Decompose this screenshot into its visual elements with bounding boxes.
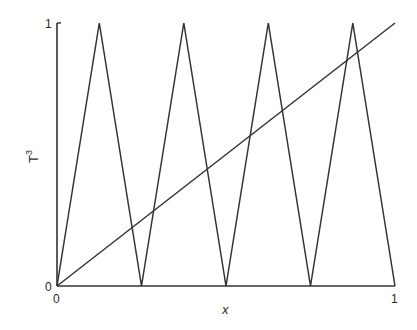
diagonal-series bbox=[57, 23, 395, 286]
y-axis-label: T3 bbox=[24, 150, 41, 163]
y-tick-1: 1 bbox=[45, 17, 52, 31]
x-tick-1: 1 bbox=[391, 292, 398, 306]
y-tick-0: 0 bbox=[45, 280, 52, 294]
chart: 1 0 0 1 x T3 bbox=[0, 0, 417, 330]
x-tick-0: 0 bbox=[53, 292, 60, 306]
svg-text:T3: T3 bbox=[24, 150, 41, 163]
x-axis-label: x bbox=[221, 302, 229, 317]
